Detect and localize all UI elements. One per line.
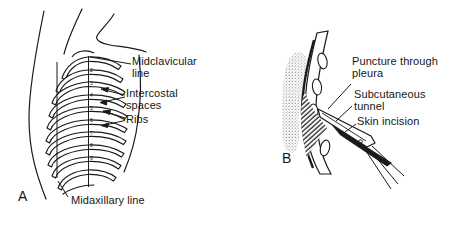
interspace-number: 8 bbox=[90, 143, 93, 148]
interspace-number: 6 bbox=[90, 118, 93, 123]
interspace-number: 2 bbox=[90, 68, 93, 73]
label-subcutaneous-tunnel: Subcutaneous tunnel bbox=[354, 89, 438, 112]
label-skin-incision: Skin incision bbox=[357, 116, 437, 128]
label-intercostal-spaces: Intercostal spaces bbox=[126, 88, 188, 111]
panel-a-letter: A bbox=[18, 188, 27, 204]
interspace-number: 4 bbox=[90, 93, 93, 98]
label-midaxillary-line: Midaxillary line bbox=[71, 195, 181, 207]
label-ribs: Ribs bbox=[126, 114, 166, 126]
interspace-number: 9 bbox=[90, 156, 93, 161]
label-puncture-through-pleura: Puncture through pleura bbox=[352, 56, 444, 79]
rib-cage bbox=[46, 51, 127, 190]
medical-figure: A Midclavicular line Intercostal spaces … bbox=[0, 0, 458, 231]
panel-b-letter: B bbox=[282, 150, 291, 166]
interspace-number: 7 bbox=[90, 131, 93, 136]
interspace-number: 5 bbox=[90, 106, 93, 111]
label-midclavicular-line: Midclavicular line bbox=[132, 56, 208, 79]
interspace-number: 3 bbox=[90, 81, 93, 86]
